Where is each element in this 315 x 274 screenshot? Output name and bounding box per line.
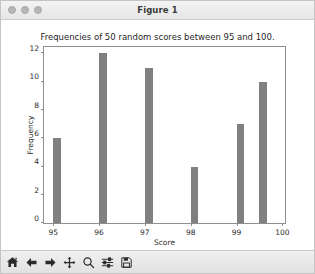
x-tick: [282, 223, 283, 226]
y-tick-label: 8: [34, 100, 39, 109]
x-axis-label: Score: [43, 238, 286, 247]
bar: [237, 124, 245, 223]
y-tick-label: 4: [34, 157, 39, 166]
navigation-toolbar: [1, 250, 314, 273]
x-tick-label: 97: [140, 228, 150, 237]
window-controls: [8, 6, 42, 14]
chart-title: Frequencies of 50 random scores between …: [1, 32, 314, 42]
back-arrow-icon[interactable]: [23, 254, 40, 271]
x-tick-label: 98: [186, 228, 196, 237]
x-tick-label: 95: [48, 228, 58, 237]
bar: [191, 167, 199, 224]
y-tick: [41, 194, 44, 195]
x-tick: [191, 223, 192, 226]
y-tick-label: 10: [29, 72, 39, 81]
figure-canvas[interactable]: Frequencies of 50 random scores between …: [1, 20, 314, 250]
y-tick: [41, 81, 44, 82]
x-tick-label: 99: [232, 228, 242, 237]
x-tick-label: 100: [275, 228, 289, 237]
x-tick: [53, 223, 54, 226]
x-tick-label: 96: [94, 228, 104, 237]
minimize-dot-icon[interactable]: [21, 6, 29, 14]
screenshot-root: Figure 1 Frequencies of 50 random scores…: [0, 0, 315, 274]
y-tick: [41, 166, 44, 167]
x-tick: [237, 223, 238, 226]
home-icon[interactable]: [4, 254, 21, 271]
window-title: Figure 1: [1, 5, 314, 15]
bar: [259, 82, 267, 223]
configure-subplots-icon[interactable]: [99, 254, 116, 271]
bar: [99, 53, 107, 223]
y-tick-label: 6: [34, 129, 39, 138]
window-titlebar[interactable]: Figure 1: [1, 1, 314, 20]
x-tick: [99, 223, 100, 226]
y-tick-label: 2: [34, 185, 39, 194]
y-tick-label: 0: [34, 213, 39, 222]
bar: [53, 138, 61, 223]
pan-move-icon[interactable]: [61, 254, 78, 271]
plot-axes: 0246810129596979899100: [43, 46, 286, 224]
y-tick: [41, 137, 44, 138]
bar: [145, 68, 153, 223]
close-dot-icon[interactable]: [8, 6, 16, 14]
zoom-dot-icon[interactable]: [34, 6, 42, 14]
y-axis-label: Frequency: [26, 116, 35, 155]
x-tick: [145, 223, 146, 226]
y-tick-label: 12: [29, 44, 39, 53]
y-tick: [41, 109, 44, 110]
y-tick: [41, 222, 44, 223]
save-floppy-icon[interactable]: [118, 254, 135, 271]
zoom-magnifier-icon[interactable]: [80, 254, 97, 271]
y-tick: [41, 52, 44, 53]
bars-container: 0246810129596979899100: [44, 47, 285, 223]
figure-window: Figure 1 Frequencies of 50 random scores…: [0, 0, 315, 274]
forward-arrow-icon[interactable]: [42, 254, 59, 271]
